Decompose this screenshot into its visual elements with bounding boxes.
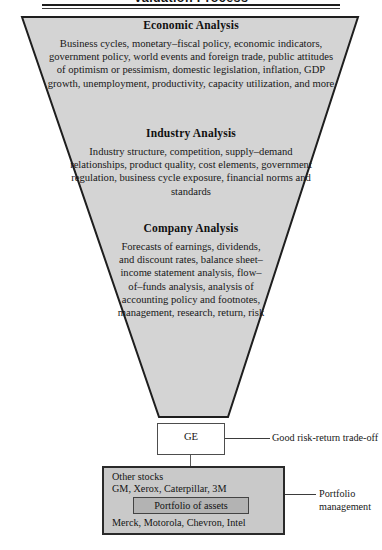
- ge-label: GE: [157, 431, 225, 442]
- portfolio-line-other-stocks: Other stocks: [112, 471, 163, 482]
- ge-connector-line: [225, 438, 270, 439]
- section-heading-company: Company Analysis: [0, 222, 382, 234]
- section-heading-economic: Economic Analysis: [0, 19, 382, 31]
- section-body-economic: Business cycles, monetary–fiscal policy,…: [45, 37, 337, 90]
- portfolio-connector-line: [285, 494, 316, 495]
- portfolio-line-stocks-upper: GM, Xerox, Caterpillar, 3M: [112, 483, 226, 494]
- portfolio-of-assets-label: Portfolio of assets: [133, 500, 249, 511]
- diagram-canvas: Valuation Process Economic Analysis Busi…: [0, 0, 382, 550]
- section-body-industry: Industry structure, competition, supply–…: [68, 145, 314, 198]
- ge-to-portfolio-connector: [190, 455, 191, 466]
- portfolio-annotation-label: Portfolio management: [319, 487, 382, 513]
- section-heading-industry: Industry Analysis: [0, 127, 382, 139]
- ge-annotation-label: Good risk-return trade-off: [272, 432, 382, 445]
- portfolio-line-stocks-lower: Merck, Motorola, Chevron, Intel: [112, 517, 246, 528]
- section-body-company: Forecasts of earnings, dividends, and di…: [116, 240, 266, 319]
